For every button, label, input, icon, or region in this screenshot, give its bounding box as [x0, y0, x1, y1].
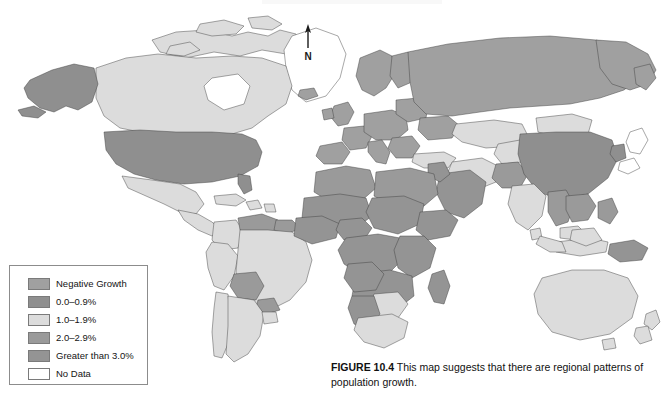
legend-label-greater-than-3-0: Greater than 3.0%	[56, 350, 134, 362]
region-india	[508, 184, 546, 230]
north-arrow: N	[296, 24, 320, 66]
region-italy	[368, 140, 390, 164]
region-tasmania	[602, 338, 616, 350]
region-uruguay	[262, 312, 278, 324]
legend-swatch-2-0-2-9	[28, 332, 50, 344]
region-south-africa	[354, 314, 408, 348]
region-florida	[238, 174, 252, 194]
region-ethiopia-horn	[416, 210, 458, 240]
region-madagascar	[428, 270, 450, 304]
region-canada-arctic	[152, 16, 300, 58]
region-new-zealand-south	[634, 326, 652, 344]
north-arrow-icon	[302, 24, 314, 50]
north-arrow-label: N	[296, 51, 320, 63]
region-papua-new-guinea	[608, 240, 648, 262]
region-japan-south	[618, 158, 640, 174]
legend-label-1-0-1-9: 1.0–1.9%	[56, 314, 96, 326]
legend-item-1-0-1-9[interactable]: 1.0–1.9%	[28, 311, 146, 328]
map-legend: Negative Growth 0.0–0.9% 1.0–1.9% 2.0–2.…	[9, 265, 148, 385]
region-scandinavia	[356, 50, 396, 96]
region-east-africa	[394, 236, 436, 278]
region-uk-ireland	[330, 102, 354, 126]
legend-label-0-0-9: 0.0–0.9%	[56, 296, 96, 308]
legend-swatch-greater-than-3-0	[28, 350, 50, 362]
legend-label-negative-growth: Negative Growth	[56, 278, 127, 290]
region-iberia	[316, 142, 350, 164]
region-argentina	[226, 296, 264, 362]
region-canada	[96, 54, 292, 136]
legend-swatch-negative-growth	[28, 278, 50, 290]
legend-item-no-data[interactable]: No Data	[28, 365, 146, 382]
legend-item-negative-growth[interactable]: Negative Growth	[28, 275, 146, 292]
region-philippines	[598, 198, 618, 224]
legend-swatch-0-0-9	[28, 296, 50, 308]
legend-item-2-0-2-9[interactable]: 2.0–2.9%	[28, 329, 146, 346]
legend-item-greater-than-3-0[interactable]: Greater than 3.0%	[28, 347, 146, 364]
legend-items-list: Negative Growth 0.0–0.9% 1.0–1.9% 2.0–2.…	[28, 275, 146, 383]
region-alaska	[24, 64, 98, 112]
region-sudan-chad	[366, 196, 424, 234]
region-japan	[626, 128, 648, 154]
region-caribbean	[214, 194, 276, 212]
legend-item-0-0-9[interactable]: 0.0–0.9%	[28, 293, 146, 310]
region-ukraine	[418, 116, 460, 140]
legend-label-2-0-2-9: 2.0–2.9%	[56, 332, 96, 344]
figure-page: N Negative Growth 0.0–0.9% 1.0–1.9% 2.0–…	[0, 0, 662, 407]
region-indochina	[566, 194, 596, 222]
region-australia	[534, 270, 638, 340]
figure-caption: FIGURE 10.4 This map suggests that there…	[331, 360, 653, 390]
legend-swatch-no-data	[28, 368, 50, 380]
legend-label-no-data: No Data	[56, 368, 91, 380]
legend-swatch-1-0-1-9	[28, 314, 50, 326]
region-ireland	[322, 108, 334, 120]
figure-number: FIGURE 10.4	[331, 361, 394, 373]
